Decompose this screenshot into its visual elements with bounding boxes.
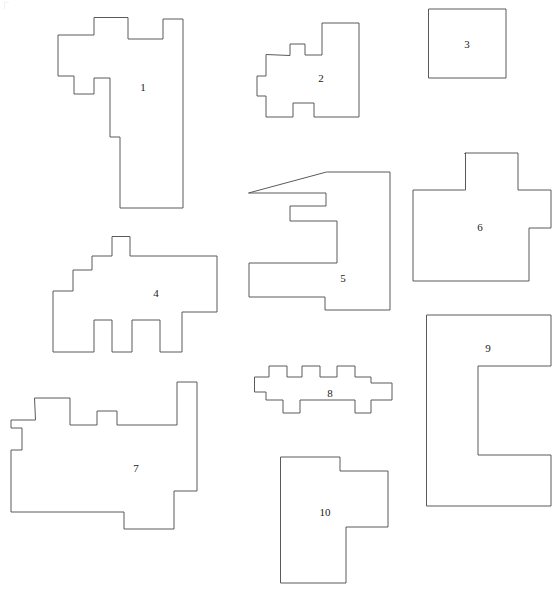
polygon-shape-8	[255, 366, 392, 413]
polygon-label-10: 10	[320, 506, 332, 518]
figure-page: { "page": { "title": "Rectilinear Polygo…	[0, 0, 558, 589]
polygon-figure-canvas: 12345678910	[0, 0, 558, 589]
shapes-group	[11, 9, 551, 583]
polygon-shape-1	[58, 18, 183, 208]
polygon-label-4: 4	[153, 287, 159, 299]
polygon-shape-2	[257, 23, 359, 117]
polygon-label-7: 7	[133, 462, 139, 474]
polygon-label-6: 6	[477, 221, 483, 233]
polygon-label-3: 3	[464, 38, 470, 50]
polygon-label-5: 5	[340, 272, 346, 284]
polygon-label-8: 8	[327, 387, 333, 399]
polygon-shape-7	[11, 382, 197, 529]
polygon-label-2: 2	[318, 72, 324, 84]
polygon-shape-5	[249, 172, 390, 310]
polygon-shape-10	[281, 457, 388, 583]
polygon-label-1: 1	[140, 81, 146, 93]
polygon-shape-6	[413, 153, 551, 281]
polygon-label-9: 9	[485, 342, 491, 354]
polygon-shape-4	[53, 237, 217, 352]
